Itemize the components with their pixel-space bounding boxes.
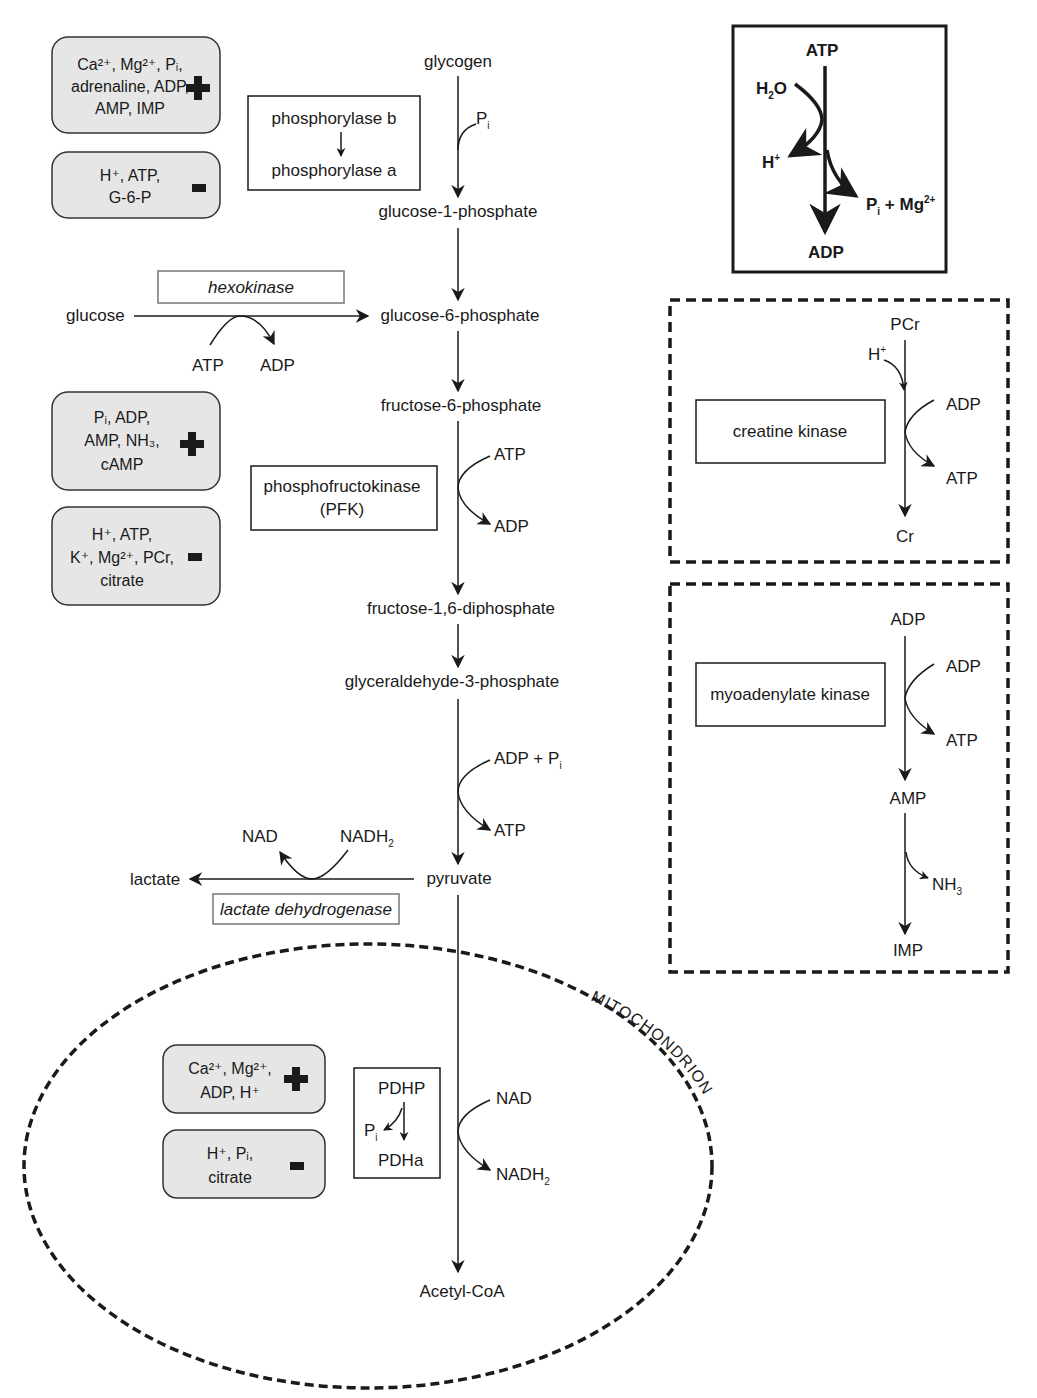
pfk-box: phosphofructokinase (PFK) xyxy=(251,466,437,530)
svg-text:phosphorylase a: phosphorylase a xyxy=(272,161,397,180)
svg-text:phosphofructokinase: phosphofructokinase xyxy=(264,477,421,496)
svg-text:glucose-1-phosphate: glucose-1-phosphate xyxy=(379,202,538,221)
svg-text:Pᵢ, ADP,: Pᵢ, ADP, xyxy=(94,409,150,426)
svg-text:NADH2: NADH2 xyxy=(496,1165,550,1187)
svg-text:NAD: NAD xyxy=(496,1089,532,1108)
svg-text:lactate: lactate xyxy=(130,870,180,889)
svg-text:glucose-6-phosphate: glucose-6-phosphate xyxy=(381,306,540,325)
svg-text:ATP: ATP xyxy=(946,731,978,750)
pdh-box: PDHP Pi PDHa xyxy=(354,1068,440,1178)
svg-text:cAMP: cAMP xyxy=(101,456,144,473)
phosphorylase-box: phosphorylase b phosphorylase a xyxy=(248,96,420,190)
glycolysis-regulation-diagram: Ca²⁺, Mg²⁺, Pᵢ, adrenaline, ADP, AMP, IM… xyxy=(0,0,1037,1398)
svg-text:ATP: ATP xyxy=(494,821,526,840)
svg-text:NH3: NH3 xyxy=(932,875,963,897)
svg-text:myoadenylate kinase: myoadenylate kinase xyxy=(710,685,870,704)
svg-text:ADP + Pi: ADP + Pi xyxy=(494,749,562,771)
svg-text:H⁺, ATP,: H⁺, ATP, xyxy=(100,167,160,184)
svg-text:PDHa: PDHa xyxy=(378,1151,424,1170)
svg-text:phosphorylase b: phosphorylase b xyxy=(272,109,397,128)
phosphorylase-inhibitors-box: H⁺, ATP, G-6-P xyxy=(52,152,220,218)
ldh-reaction: lactate NAD NADH2 lactate dehydrogenase xyxy=(130,827,414,924)
minus-icon xyxy=(188,553,202,561)
pfk-activators-box: Pᵢ, ADP, AMP, NH₃, cAMP xyxy=(52,392,220,490)
svg-text:ATP: ATP xyxy=(494,445,526,464)
atp-hydrolysis-box: ATP H2O H+ Pi + Mg2+ ADP xyxy=(733,26,946,272)
svg-text:ADP: ADP xyxy=(946,395,981,414)
hexokinase-reaction: hexokinase glucose ATP ADP xyxy=(66,271,368,375)
svg-text:pyruvate: pyruvate xyxy=(426,869,491,888)
svg-text:ATP: ATP xyxy=(192,356,224,375)
svg-text:H⁺, ATP,: H⁺, ATP, xyxy=(92,526,152,543)
svg-text:(PFK): (PFK) xyxy=(320,500,364,519)
svg-text:Acetyl-CoA: Acetyl-CoA xyxy=(419,1282,505,1301)
svg-text:K⁺, Mg²⁺, PCr,: K⁺, Mg²⁺, PCr, xyxy=(70,549,174,566)
svg-text:citrate: citrate xyxy=(100,572,144,589)
pdh-activators-box: Ca²⁺, Mg²⁺, ADP, H⁺ xyxy=(163,1045,325,1113)
svg-text:Pi: Pi xyxy=(476,109,490,131)
svg-text:citrate: citrate xyxy=(208,1169,252,1186)
svg-text:glycogen: glycogen xyxy=(424,52,492,71)
svg-text:H⁺, Pᵢ,: H⁺, Pᵢ, xyxy=(207,1145,254,1162)
svg-text:PDHP: PDHP xyxy=(378,1079,425,1098)
svg-text:ADP: ADP xyxy=(891,610,926,629)
pdh-inhibitors-box: H⁺, Pᵢ, citrate xyxy=(163,1130,325,1198)
svg-text:lactate dehydrogenase: lactate dehydrogenase xyxy=(220,900,392,919)
svg-text:H+: H+ xyxy=(868,344,886,364)
svg-text:fructose-1,6-diphosphate: fructose-1,6-diphosphate xyxy=(367,599,555,618)
svg-text:adrenaline, ADP,: adrenaline, ADP, xyxy=(71,78,189,95)
svg-text:AMP: AMP xyxy=(890,789,927,808)
svg-text:Cr: Cr xyxy=(896,527,914,546)
svg-text:ATP: ATP xyxy=(806,41,839,60)
svg-text:Ca²⁺, Mg²⁺, Pᵢ,: Ca²⁺, Mg²⁺, Pᵢ, xyxy=(77,56,183,73)
phosphorylase-activators-box: Ca²⁺, Mg²⁺, Pᵢ, adrenaline, ADP, AMP, IM… xyxy=(52,37,220,133)
svg-text:ADP: ADP xyxy=(946,657,981,676)
svg-text:fructose-6-phosphate: fructose-6-phosphate xyxy=(381,396,542,415)
svg-text:NADH2: NADH2 xyxy=(340,827,394,849)
svg-text:ADP: ADP xyxy=(808,243,844,262)
svg-text:AMP, IMP: AMP, IMP xyxy=(95,100,165,117)
svg-text:creatine kinase: creatine kinase xyxy=(733,422,847,441)
svg-text:ADP: ADP xyxy=(260,356,295,375)
svg-text:ADP, H⁺: ADP, H⁺ xyxy=(200,1084,260,1101)
svg-text:glucose: glucose xyxy=(66,306,125,325)
minus-icon xyxy=(290,1162,304,1170)
svg-text:hexokinase: hexokinase xyxy=(208,278,294,297)
svg-text:G-6-P: G-6-P xyxy=(109,189,152,206)
svg-text:IMP: IMP xyxy=(893,941,923,960)
svg-text:Ca²⁺, Mg²⁺,: Ca²⁺, Mg²⁺, xyxy=(188,1060,272,1077)
mitochondrion: MITOCHONDRION Ca²⁺, Mg²⁺, ADP, H⁺ H⁺, Pᵢ… xyxy=(24,944,720,1388)
minus-icon xyxy=(192,184,206,192)
myoadenylate-kinase-box: ADP ADP ATP myoadenylate kinase AMP NH3 … xyxy=(670,584,1008,972)
svg-text:AMP, NH₃,: AMP, NH₃, xyxy=(84,432,160,449)
svg-text:ATP: ATP xyxy=(946,469,978,488)
svg-text:PCr: PCr xyxy=(890,315,920,334)
svg-text:ADP: ADP xyxy=(494,517,529,536)
creatine-kinase-box: PCr H+ ADP ATP creatine kinase Cr xyxy=(670,300,1008,562)
pfk-inhibitors-box: H⁺, ATP, K⁺, Mg²⁺, PCr, citrate xyxy=(52,507,220,605)
svg-text:NAD: NAD xyxy=(242,827,278,846)
svg-text:glyceraldehyde-3-phosphate: glyceraldehyde-3-phosphate xyxy=(345,672,560,691)
